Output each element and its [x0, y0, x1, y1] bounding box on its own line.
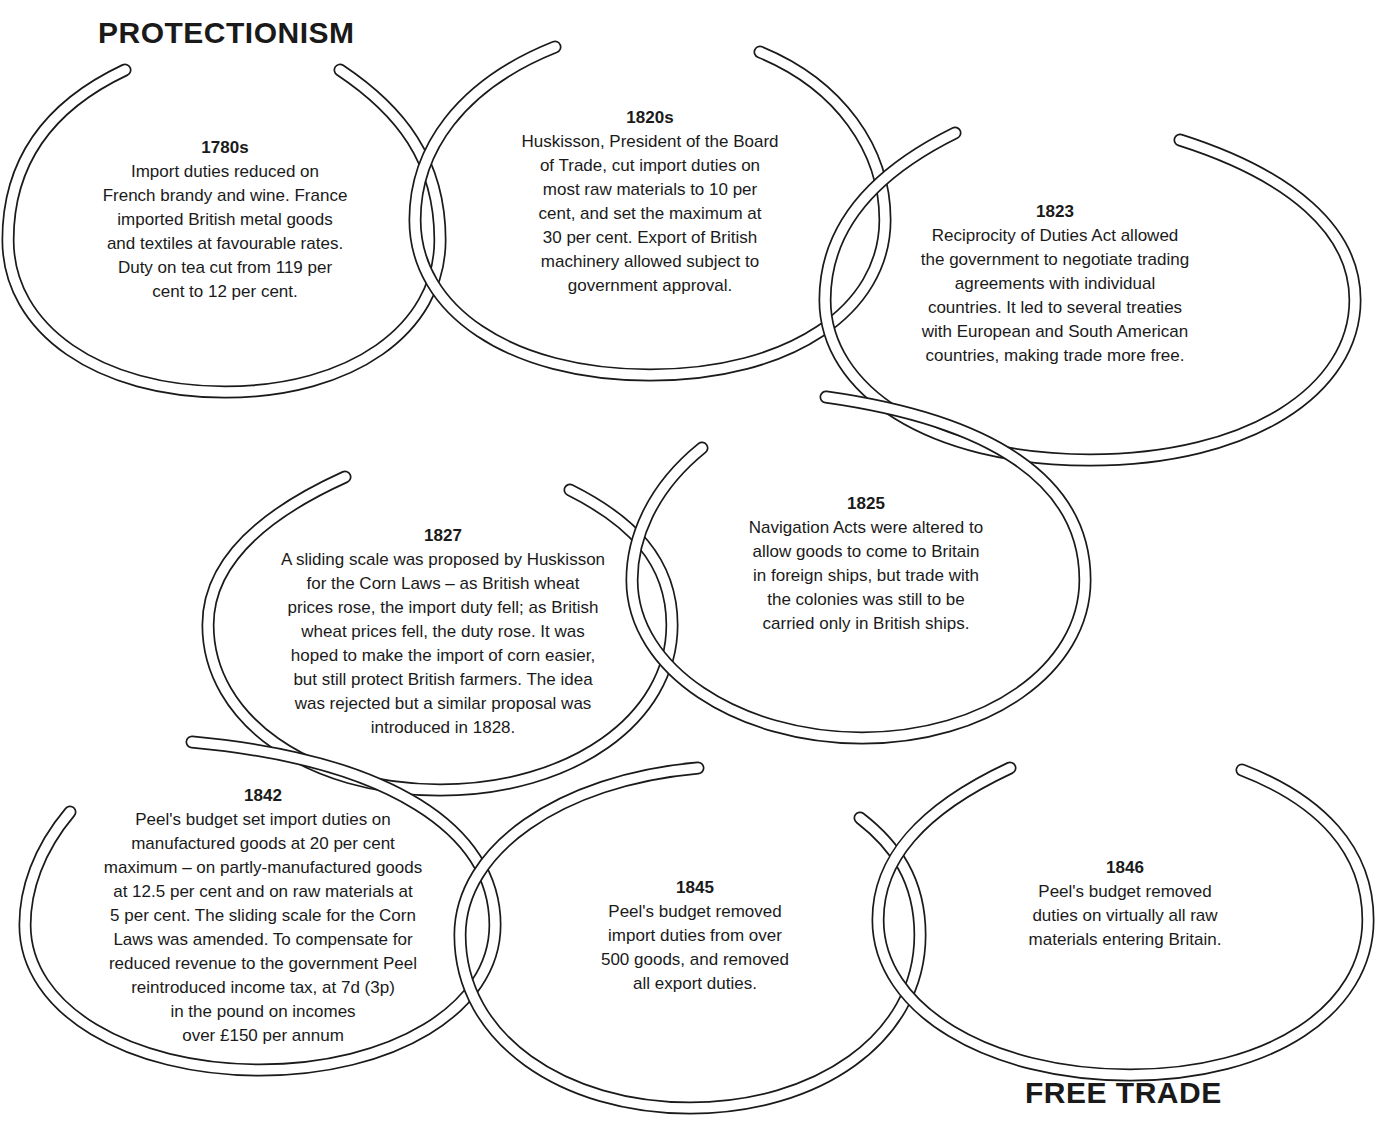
- event-description: A sliding scale was proposed by Huskisso…: [258, 548, 628, 740]
- event-1846: 1846 Peel's budget removed duties on vir…: [1000, 856, 1250, 952]
- desc-line: cent to 12 per cent.: [152, 282, 298, 301]
- title-protectionism: PROTECTIONISM: [98, 16, 355, 50]
- event-description: Peel's budget set import duties on manuf…: [78, 808, 448, 1048]
- desc-line: 500 goods, and removed: [601, 950, 789, 969]
- event-1823: 1823 Reciprocity of Duties Act allowed t…: [895, 200, 1215, 368]
- desc-line: materials entering Britain.: [1029, 930, 1222, 949]
- event-year: 1845: [570, 876, 820, 900]
- event-1820s: 1820s Huskisson, President of the Board …: [500, 106, 800, 298]
- desc-line: Duty on tea cut from 119 per: [118, 258, 332, 277]
- event-description: Navigation Acts were altered to allow go…: [716, 516, 1016, 636]
- desc-line: wheat prices fell, the duty rose. It was: [301, 622, 584, 641]
- desc-line: duties on virtually all raw: [1032, 906, 1217, 925]
- desc-line: cent, and set the maximum at: [539, 204, 762, 223]
- desc-line: of Trade, cut import duties on: [540, 156, 760, 175]
- desc-line: carried only in British ships.: [763, 614, 970, 633]
- desc-line: and textiles at favourable rates.: [107, 234, 343, 253]
- desc-line: at 12.5 per cent and on raw materials at: [113, 882, 413, 901]
- event-1827: 1827 A sliding scale was proposed by Hus…: [258, 524, 628, 740]
- event-1780s: 1780s Import duties reduced on French br…: [80, 136, 370, 304]
- event-year: 1820s: [500, 106, 800, 130]
- desc-line: maximum – on partly-manufactured goods: [104, 858, 422, 877]
- desc-line: the colonies was still to be: [767, 590, 965, 609]
- desc-line: prices rose, the import duty fell; as Br…: [288, 598, 599, 617]
- event-description: Reciprocity of Duties Act allowed the go…: [895, 224, 1215, 368]
- event-description: Huskisson, President of the Board of Tra…: [500, 130, 800, 298]
- event-1845: 1845 Peel's budget removed import duties…: [570, 876, 820, 996]
- desc-line: manufactured goods at 20 per cent: [131, 834, 395, 853]
- desc-line: import duties from over: [608, 926, 782, 945]
- event-description: Peel's budget removed duties on virtuall…: [1000, 880, 1250, 952]
- desc-line: 5 per cent. The sliding scale for the Co…: [110, 906, 416, 925]
- desc-line: agreements with individual: [955, 274, 1155, 293]
- event-year: 1780s: [80, 136, 370, 160]
- desc-line: in the pound on incomes: [170, 1002, 355, 1021]
- desc-line: reintroduced income tax, at 7d (3p): [131, 978, 395, 997]
- desc-line: Peel's budget removed: [608, 902, 781, 921]
- desc-line: Reciprocity of Duties Act allowed: [932, 226, 1179, 245]
- desc-line: Huskisson, President of the Board: [521, 132, 778, 151]
- desc-line: countries. It led to several treaties: [928, 298, 1182, 317]
- desc-line: machinery allowed subject to: [541, 252, 759, 271]
- title-free-trade: FREE TRADE: [1025, 1076, 1222, 1110]
- event-description: Peel's budget removed import duties from…: [570, 900, 820, 996]
- desc-line: most raw materials to 10 per: [543, 180, 757, 199]
- desc-line: Peel's budget set import duties on: [135, 810, 391, 829]
- desc-line: hoped to make the import of corn easier,: [291, 646, 595, 665]
- event-year: 1823: [895, 200, 1215, 224]
- desc-line: Navigation Acts were altered to: [749, 518, 983, 537]
- desc-line: over £150 per annum: [182, 1026, 344, 1045]
- event-year: 1846: [1000, 856, 1250, 880]
- event-description: Import duties reduced on French brandy a…: [80, 160, 370, 304]
- event-1825: 1825 Navigation Acts were altered to all…: [716, 492, 1016, 636]
- desc-line: the government to negotiate trading: [921, 250, 1189, 269]
- desc-line: Import duties reduced on: [131, 162, 319, 181]
- desc-line: government approval.: [568, 276, 732, 295]
- event-year: 1827: [258, 524, 628, 548]
- desc-line: Laws was amended. To compensate for: [113, 930, 412, 949]
- desc-line: but still protect British farmers. The i…: [293, 670, 592, 689]
- desc-line: all export duties.: [633, 974, 757, 993]
- desc-line: French brandy and wine. France: [103, 186, 348, 205]
- desc-line: in foreign ships, but trade with: [753, 566, 979, 585]
- desc-line: allow goods to come to Britain: [753, 542, 980, 561]
- event-year: 1825: [716, 492, 1016, 516]
- desc-line: A sliding scale was proposed by Huskisso…: [281, 550, 605, 569]
- event-year: 1842: [78, 784, 448, 808]
- desc-line: countries, making trade more free.: [926, 346, 1185, 365]
- desc-line: reduced revenue to the government Peel: [109, 954, 417, 973]
- desc-line: introduced in 1828.: [371, 718, 516, 737]
- desc-line: imported British metal goods: [117, 210, 332, 229]
- desc-line: for the Corn Laws – as British wheat: [306, 574, 579, 593]
- desc-line: 30 per cent. Export of British: [543, 228, 758, 247]
- desc-line: was rejected but a similar proposal was: [295, 694, 592, 713]
- desc-line: with European and South American: [922, 322, 1189, 341]
- desc-line: Peel's budget removed: [1038, 882, 1211, 901]
- event-1842: 1842 Peel's budget set import duties on …: [78, 784, 448, 1048]
